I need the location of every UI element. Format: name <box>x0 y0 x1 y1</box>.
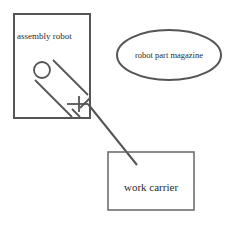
arm-connector-line <box>88 104 137 165</box>
diagram-canvas: assembly robot robot part magazine work … <box>0 0 237 225</box>
work-carrier-label: work carrier <box>124 181 178 193</box>
assembly-robot-label: assembly robot <box>17 31 72 41</box>
robot-part-magazine-label: robot part magazine <box>135 50 203 60</box>
work-carrier-node: work carrier <box>108 152 194 210</box>
robot-part-magazine-node: robot part magazine <box>117 30 221 80</box>
robot-arm-icon <box>34 60 90 117</box>
